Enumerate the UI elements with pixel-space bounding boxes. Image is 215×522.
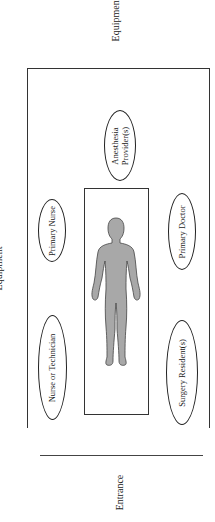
room-wall-right	[209, 68, 210, 428]
anesthesia-label-line2: Provider(s)	[120, 126, 130, 164]
equipment-label-left: Equipment	[0, 246, 4, 290]
room-wall-left	[27, 68, 28, 428]
nurse-or-technician-label: Nurse or Technician	[48, 333, 58, 402]
anesthesia-provider-ellipse: Anesthesia Provider(s)	[104, 110, 136, 181]
room-wall-top	[27, 68, 209, 69]
equipment-label-top: Equipment	[110, 0, 121, 41]
entrance-line	[40, 455, 203, 456]
primary-doctor-ellipse: Primary Doctor	[168, 193, 196, 270]
patient-figure-icon	[90, 215, 142, 370]
surgery-resident-ellipse: Surgery Resident(s)	[166, 320, 198, 425]
anesthesia-provider-label: Anesthesia Provider(s)	[110, 126, 130, 164]
surgery-resident-label: Surgery Resident(s)	[177, 339, 187, 407]
entrance-label: Entrance	[114, 474, 125, 510]
nurse-or-technician-ellipse: Nurse or Technician	[38, 315, 67, 420]
anesthesia-label-line1: Anesthesia	[110, 126, 120, 164]
primary-nurse-ellipse: Primary Nurse	[38, 199, 66, 262]
primary-nurse-label: Primary Nurse	[47, 206, 57, 256]
primary-doctor-label: Primary Doctor	[177, 205, 187, 258]
